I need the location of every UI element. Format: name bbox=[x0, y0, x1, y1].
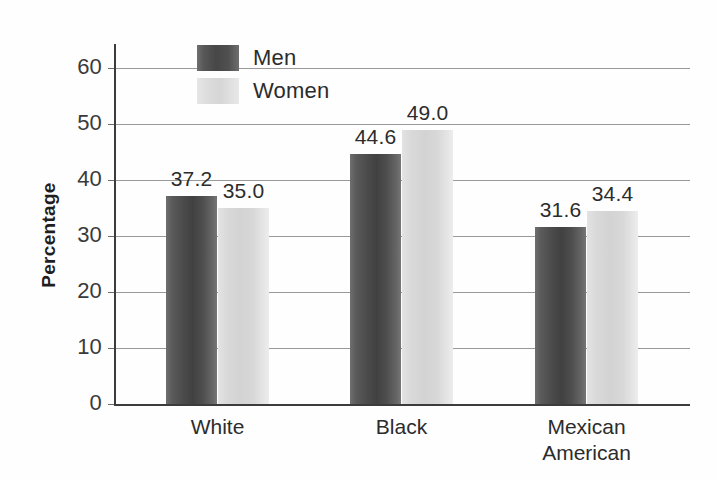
y-tick-label: 0 bbox=[0, 390, 102, 416]
x-axis-line bbox=[114, 404, 690, 406]
legend-swatch-women-icon bbox=[197, 78, 239, 104]
bar-value-label: 31.6 bbox=[537, 198, 585, 222]
y-axis-line bbox=[114, 44, 116, 406]
bar-value-label: 37.2 bbox=[168, 167, 216, 191]
bar-value-label: 35.0 bbox=[220, 179, 268, 203]
bar-value-label: 49.0 bbox=[404, 101, 452, 125]
category-label-mexican-american: MexicanAmerican bbox=[477, 414, 697, 466]
legend-label-men: Men bbox=[253, 45, 296, 71]
bar-men-black bbox=[350, 154, 401, 404]
bar-value-label: 44.6 bbox=[352, 125, 400, 149]
bar-chart: 0102030405060 Percentage 37.244.631.635.… bbox=[0, 0, 716, 481]
category-label-line: Mexican bbox=[477, 414, 697, 440]
y-axis-title: Percentage bbox=[38, 85, 60, 385]
legend: Men Women bbox=[197, 43, 329, 109]
legend-label-women: Women bbox=[253, 78, 329, 104]
y-tick-label: 60 bbox=[0, 54, 102, 80]
bar-men-white bbox=[166, 196, 217, 404]
legend-swatch-men-icon bbox=[197, 45, 239, 71]
bar-men-mexican-american bbox=[535, 227, 586, 404]
bar-women-mexican-american bbox=[587, 211, 638, 404]
category-label-line: American bbox=[477, 440, 697, 466]
bar-women-black bbox=[402, 130, 453, 404]
legend-item-men: Men bbox=[197, 43, 329, 72]
bar-value-label: 34.4 bbox=[589, 182, 637, 206]
bar-women-white bbox=[218, 208, 269, 404]
legend-item-women: Women bbox=[197, 76, 329, 105]
